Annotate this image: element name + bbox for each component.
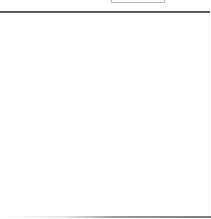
panel-right-edge bbox=[209, 13, 210, 216]
top-control-box[interactable] bbox=[111, 0, 165, 3]
bottom-border-line bbox=[0, 216, 211, 218]
empty-content-panel bbox=[0, 13, 209, 216]
